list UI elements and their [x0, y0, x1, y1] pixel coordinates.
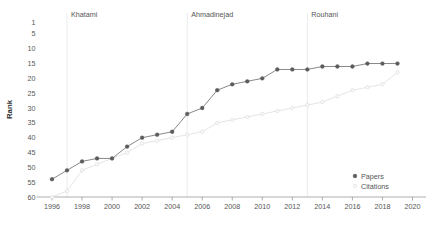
era-label: Rouhani	[311, 10, 338, 19]
data-point-papers	[110, 157, 114, 161]
y-tick-label: 20	[28, 74, 36, 83]
data-point-papers	[275, 68, 279, 72]
x-tick-label: 2010	[254, 202, 270, 211]
y-tick-label: 50	[28, 163, 36, 172]
y-tick-label: 25	[28, 89, 36, 98]
data-point-papers	[95, 157, 99, 161]
data-point-citations	[396, 71, 399, 74]
data-series-group	[50, 62, 399, 199]
data-point-citations	[276, 109, 279, 112]
data-point-papers	[351, 65, 355, 69]
y-axis-title: Rank	[5, 99, 14, 119]
data-point-papers	[50, 177, 54, 181]
x-tick-label: 2016	[344, 202, 360, 211]
era-label: Ahmadinejad	[191, 10, 233, 19]
data-point-papers	[230, 82, 234, 86]
data-point-citations	[201, 130, 204, 133]
data-point-papers	[170, 130, 174, 134]
series-line-citations	[52, 72, 397, 197]
data-point-papers	[215, 88, 219, 92]
data-point-citations	[155, 139, 158, 142]
x-tick-label: 2008	[224, 202, 240, 211]
x-tick-label: 2018	[374, 202, 390, 211]
era-label: Khatami	[71, 10, 98, 19]
data-point-citations	[321, 100, 324, 103]
data-point-papers	[125, 145, 129, 149]
y-axis-ticks: 151015202530354045505560	[28, 18, 36, 202]
x-axis-ticks: 1996199820002002200420062008201020122014…	[44, 197, 420, 211]
y-tick-label: 15	[28, 59, 36, 68]
data-point-papers	[290, 68, 294, 72]
data-point-citations	[216, 121, 219, 124]
legend-marker-papers	[353, 174, 357, 178]
data-point-citations	[261, 112, 264, 115]
data-point-papers	[260, 76, 264, 80]
y-tick-label: 10	[28, 44, 36, 53]
x-tick-label: 2000	[104, 202, 120, 211]
data-point-citations	[231, 118, 234, 121]
y-tick-label: 5	[32, 29, 36, 38]
data-point-citations	[366, 86, 369, 89]
data-point-papers	[185, 112, 189, 116]
data-point-papers	[245, 79, 249, 83]
era-divider-lines	[67, 13, 307, 197]
y-tick-label: 30	[28, 104, 36, 113]
legend-label-citations[interactable]: Citations	[361, 182, 389, 191]
data-point-citations	[50, 195, 53, 198]
data-point-papers	[366, 62, 370, 66]
data-point-papers	[155, 133, 159, 137]
data-point-papers	[305, 68, 309, 72]
x-tick-label: 2002	[134, 202, 150, 211]
x-tick-label: 2004	[164, 202, 180, 211]
data-point-citations	[336, 94, 339, 97]
data-point-citations	[246, 115, 249, 118]
x-tick-label: 1998	[74, 202, 90, 211]
data-point-papers	[396, 62, 400, 66]
x-tick-label: 2014	[314, 202, 330, 211]
y-tick-label: 60	[28, 193, 36, 202]
data-point-citations	[80, 169, 83, 172]
era-label-group: KhatamiAhmadinejadRouhani	[71, 10, 338, 19]
data-point-citations	[95, 163, 98, 166]
x-tick-label: 2020	[404, 202, 420, 211]
data-point-papers	[200, 106, 204, 110]
data-point-papers	[320, 65, 324, 69]
data-point-citations	[125, 151, 128, 154]
data-point-papers	[381, 62, 385, 66]
x-tick-label: 1996	[44, 202, 60, 211]
data-point-citations	[291, 106, 294, 109]
y-tick-label: 45	[28, 148, 36, 157]
data-point-papers	[140, 136, 144, 140]
y-tick-label: 35	[28, 118, 36, 127]
data-point-papers	[80, 160, 84, 164]
data-point-citations	[140, 142, 143, 145]
y-tick-label: 1	[32, 18, 36, 27]
data-point-citations	[351, 89, 354, 92]
chart-canvas: KhatamiAhmadinejadRouhani 15101520253035…	[0, 0, 430, 225]
data-point-citations	[185, 133, 188, 136]
legend-marker-citations	[353, 184, 356, 187]
chart-legend: PapersCitations	[353, 172, 389, 191]
legend-label-papers[interactable]: Papers	[361, 172, 384, 181]
rank-trend-chart: KhatamiAhmadinejadRouhani 15101520253035…	[0, 0, 430, 225]
data-point-papers	[335, 65, 339, 69]
data-point-citations	[381, 83, 384, 86]
data-point-citations	[65, 189, 68, 192]
y-tick-label: 40	[28, 133, 36, 142]
data-point-citations	[170, 136, 173, 139]
data-point-citations	[306, 103, 309, 106]
data-point-papers	[65, 168, 69, 172]
y-tick-label: 55	[28, 178, 36, 187]
x-tick-label: 2006	[194, 202, 210, 211]
x-tick-label: 2012	[284, 202, 300, 211]
